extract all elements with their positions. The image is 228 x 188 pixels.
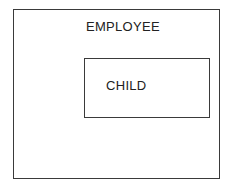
- child-entity-box: [84, 58, 210, 118]
- employee-entity-label: EMPLOYEE: [86, 20, 160, 33]
- child-entity-label: CHILD: [106, 79, 147, 92]
